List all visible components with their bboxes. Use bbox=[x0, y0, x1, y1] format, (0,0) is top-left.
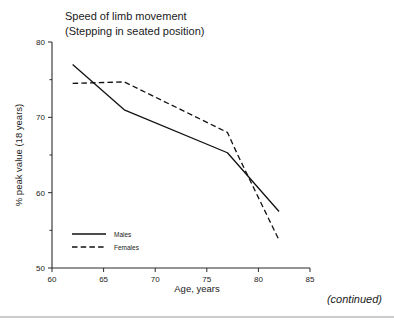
y-tick-label: 80 bbox=[36, 38, 45, 47]
y-axis-label: % peak value (18 years) bbox=[13, 104, 24, 206]
y-tick-label: 50 bbox=[36, 264, 45, 273]
data-series-group bbox=[73, 65, 279, 241]
series-line-males bbox=[73, 65, 279, 212]
chart-canvas: Speed of limb movement (Stepping in seat… bbox=[0, 0, 394, 324]
chart-subtitle: (Stepping in seated position) bbox=[65, 25, 204, 37]
x-axis-ticks: 606570758085 bbox=[48, 268, 315, 284]
continued-note: (continued) bbox=[327, 293, 382, 305]
x-tick-label: 85 bbox=[306, 275, 315, 284]
figure-panel: Speed of limb movement (Stepping in seat… bbox=[0, 0, 394, 324]
legend-label-males: Males bbox=[114, 231, 132, 238]
x-axis-label: Age, years bbox=[174, 283, 220, 294]
y-tick-label: 60 bbox=[36, 189, 45, 198]
x-tick-label: 65 bbox=[99, 275, 108, 284]
x-tick-label: 60 bbox=[48, 275, 57, 284]
x-tick-label: 80 bbox=[254, 275, 263, 284]
legend-label-females: Females bbox=[114, 244, 140, 251]
x-tick-label: 70 bbox=[151, 275, 160, 284]
y-tick-label: 70 bbox=[36, 113, 45, 122]
chart-legend: MalesFemales bbox=[72, 231, 140, 251]
series-line-females bbox=[73, 82, 279, 240]
chart-title: Speed of limb movement bbox=[65, 10, 187, 22]
